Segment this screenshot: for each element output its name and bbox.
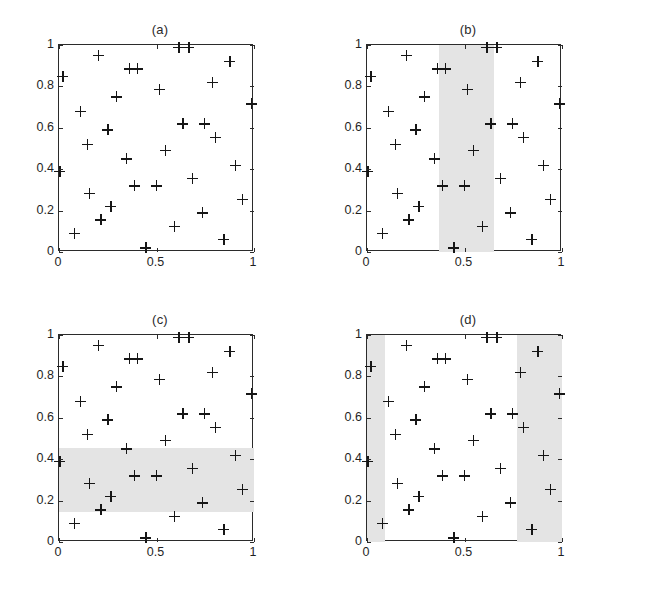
panel-b-plot-area	[366, 44, 561, 251]
data-point	[154, 374, 165, 385]
data-point	[459, 470, 470, 481]
y-axis-label: 0.2	[320, 203, 362, 217]
data-point	[390, 429, 401, 440]
data-point	[129, 180, 140, 191]
y-axis-tick	[558, 542, 562, 543]
data-point	[75, 106, 86, 117]
panel-c-title: (c)	[10, 312, 310, 327]
data-point	[69, 228, 80, 239]
data-point	[413, 201, 424, 212]
data-point	[392, 478, 403, 489]
panel-b-x-axis-labels: 00.51	[366, 255, 561, 275]
y-axis-tick	[250, 252, 254, 253]
x-axis-tick	[59, 248, 60, 252]
data-point	[151, 180, 162, 191]
shaded-band	[59, 448, 254, 512]
data-point	[82, 429, 93, 440]
data-point	[173, 42, 184, 53]
y-axis-tick	[59, 252, 63, 253]
y-axis-tick	[367, 542, 371, 543]
y-axis-label: 1	[12, 37, 54, 51]
data-point	[111, 91, 122, 102]
y-axis-tick	[59, 459, 63, 460]
data-point	[124, 63, 135, 74]
data-point	[419, 381, 430, 392]
panel-d-x-axis-labels: 00.51	[366, 545, 561, 565]
data-point	[507, 408, 518, 419]
y-axis-tick	[367, 501, 371, 502]
y-axis-tick	[59, 418, 63, 419]
data-point	[462, 374, 473, 385]
data-point	[495, 463, 506, 474]
data-point	[132, 63, 143, 74]
data-point	[410, 124, 421, 135]
x-axis-label: 0.5	[442, 255, 486, 269]
y-axis-label: 0.6	[320, 120, 362, 134]
y-axis-tick	[250, 211, 254, 212]
y-axis-tick	[59, 542, 63, 543]
data-point	[377, 228, 388, 239]
x-axis-label: 0	[344, 545, 388, 559]
x-axis-tick	[367, 335, 368, 339]
data-point	[140, 532, 151, 543]
panel-b-y-axis-labels: 00.20.40.60.81	[318, 44, 362, 251]
data-point	[403, 504, 414, 515]
y-axis-tick	[367, 211, 371, 212]
x-axis-label: 1	[231, 255, 275, 269]
y-axis-label: 0.6	[12, 410, 54, 424]
data-point	[526, 234, 537, 245]
x-axis-tick	[254, 538, 255, 542]
panel-a-y-axis-labels: 00.20.40.60.81	[10, 44, 54, 251]
y-axis-tick	[250, 86, 254, 87]
panel-b-title: (b)	[318, 22, 618, 37]
y-axis-tick	[59, 376, 63, 377]
y-axis-label: 0.2	[12, 203, 54, 217]
data-point	[169, 221, 180, 232]
panel-c-x-axis-labels: 00.51	[58, 545, 253, 565]
x-axis-tick	[367, 538, 368, 542]
figure-four-panel-scatter: (a) 00.20.40.60.81 00.51 (b) 00.20.40.60…	[0, 0, 655, 604]
y-axis-label: 1	[12, 327, 54, 341]
panel-d-y-axis-labels: 00.20.40.60.81	[318, 334, 362, 541]
y-axis-tick	[59, 169, 63, 170]
data-point	[538, 160, 549, 171]
y-axis-tick	[558, 86, 562, 87]
y-axis-label: 0.8	[320, 368, 362, 382]
y-axis-tick	[558, 211, 562, 212]
data-point	[365, 71, 376, 82]
panel-d-title: (d)	[318, 312, 618, 327]
data-point	[440, 353, 451, 364]
y-axis-tick	[250, 128, 254, 129]
y-axis-tick	[558, 128, 562, 129]
data-point	[545, 194, 556, 205]
y-axis-label: 0.2	[320, 493, 362, 507]
data-point	[54, 166, 65, 177]
data-point	[246, 388, 257, 399]
data-point	[383, 106, 394, 117]
y-axis-label: 1	[320, 327, 362, 341]
data-point	[432, 353, 443, 364]
y-axis-tick	[250, 501, 254, 502]
x-axis-label: 0.5	[134, 255, 178, 269]
data-point	[491, 332, 502, 343]
data-point	[93, 340, 104, 351]
panel-a-plot-area	[58, 44, 253, 251]
data-point	[187, 173, 198, 184]
y-axis-tick	[59, 128, 63, 129]
data-point	[154, 84, 165, 95]
x-axis-tick	[562, 538, 563, 542]
data-point	[448, 532, 459, 543]
data-point	[197, 207, 208, 218]
data-point	[102, 124, 113, 135]
panel-c-y-axis-labels: 00.20.40.60.81	[10, 334, 54, 541]
data-point	[183, 42, 194, 53]
panel-b: (b) 00.20.40.60.81 00.51	[318, 22, 618, 312]
data-point	[199, 408, 210, 419]
data-point	[207, 367, 218, 378]
x-axis-label: 0.5	[134, 545, 178, 559]
y-axis-label: 0.2	[12, 493, 54, 507]
data-point	[419, 91, 430, 102]
y-axis-tick	[558, 501, 562, 502]
y-axis-tick	[250, 459, 254, 460]
data-point	[218, 234, 229, 245]
